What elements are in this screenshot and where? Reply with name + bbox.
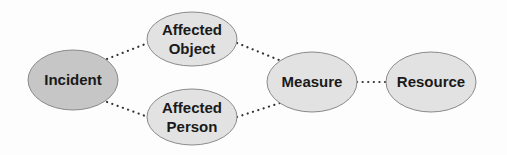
node-affected-person: AffectedPerson	[147, 89, 237, 145]
connector-affected-object-to-measure	[237, 43, 279, 60]
node-affected-object: AffectedObject	[147, 12, 237, 66]
node-label: Object	[169, 40, 216, 57]
node-resource: Resource	[386, 52, 476, 112]
connector-incident-to-affected-person	[107, 102, 148, 117]
node-label: Measure	[282, 73, 343, 90]
node-label: Incident	[44, 71, 102, 88]
node-label: Affected	[162, 21, 222, 38]
node-label: Affected	[162, 99, 222, 116]
node-label: Person	[167, 118, 218, 135]
connector-affected-person-to-measure	[237, 103, 280, 117]
entity-relationship-diagram: IncidentAffectedObjectAffectedPersonMeas…	[0, 0, 507, 155]
node-layer: IncidentAffectedObjectAffectedPersonMeas…	[28, 12, 476, 145]
node-label: Resource	[397, 73, 465, 90]
node-incident: Incident	[28, 50, 118, 110]
node-measure: Measure	[267, 52, 357, 112]
diagram-canvas: IncidentAffectedObjectAffectedPersonMeas…	[0, 0, 507, 155]
connector-incident-to-affected-object	[107, 43, 148, 59]
